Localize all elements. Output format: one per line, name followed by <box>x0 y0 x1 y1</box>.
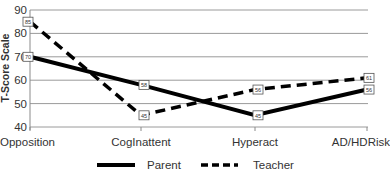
svg-text:58: 58 <box>141 82 147 88</box>
y-tick-label: 60 <box>14 74 27 86</box>
data-label: 61 <box>364 73 374 82</box>
svg-text:56: 56 <box>255 87 261 93</box>
legend: ParentTeacher <box>97 159 294 171</box>
svg-text:61: 61 <box>366 75 372 81</box>
data-label: 58 <box>139 80 149 89</box>
svg-text:45: 45 <box>255 113 261 119</box>
svg-text:45: 45 <box>141 113 147 119</box>
data-label: 45 <box>253 111 263 120</box>
data-label: 56 <box>364 85 374 94</box>
data-label: 85 <box>23 17 33 26</box>
svg-text:56: 56 <box>366 87 372 93</box>
x-tick-label: Hyperact <box>232 136 279 148</box>
series-lines <box>30 22 367 116</box>
y-axis-label: T-Score Scale <box>0 33 11 102</box>
svg-text:85: 85 <box>25 19 31 25</box>
x-tick-label: AD/HDRisk <box>332 136 390 148</box>
data-label: 70 <box>23 52 33 61</box>
data-label: 45 <box>139 111 149 120</box>
line-chart: 405060708090 T-Score Scale OppositionCog… <box>0 0 390 173</box>
legend-parent-label: Parent <box>147 159 182 171</box>
data-label: 56 <box>253 85 263 94</box>
x-tick-label: CogInattent <box>111 136 171 148</box>
svg-text:70: 70 <box>25 54 31 60</box>
x-tick-label: Opposition <box>0 136 55 148</box>
y-tick-label: 90 <box>14 4 27 16</box>
x-axis: OppositionCogInattentHyperactAD/HDRisk <box>0 127 390 148</box>
y-tick-label: 50 <box>14 98 27 110</box>
y-tick-label: 40 <box>14 121 27 133</box>
legend-teacher-label: Teacher <box>253 159 294 171</box>
y-tick-label: 80 <box>14 27 27 39</box>
